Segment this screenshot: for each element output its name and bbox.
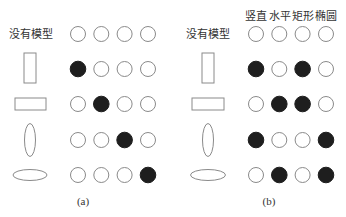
neuron-inactive: [249, 97, 264, 112]
no-model-label: 没有模型: [9, 27, 53, 41]
neuron-encoding-diagram: 没有模型 (a) 竖直 水平 矩形 椭圆 没有模型 (b): [0, 0, 346, 217]
neuron-inactive: [117, 27, 132, 42]
neuron-active: [70, 61, 86, 77]
neuron-inactive: [249, 27, 264, 42]
neuron-inactive: [117, 97, 132, 112]
neuron-active: [318, 132, 334, 148]
neuron-inactive: [319, 62, 334, 77]
neuron-inactive: [94, 168, 109, 183]
column-header-vertical: 竖直: [245, 9, 267, 23]
vertical-rectangle-icon: [202, 53, 214, 83]
neuron-inactive: [94, 133, 109, 148]
neuron-active: [94, 96, 110, 112]
neuron-inactive: [295, 27, 310, 42]
vertical-ellipse-icon: [25, 124, 36, 157]
panel-b: 竖直 水平 矩形 椭圆 没有模型 (b): [186, 9, 337, 208]
horizontal-ellipse-icon: [191, 170, 226, 181]
neuron-inactive: [94, 27, 109, 42]
neuron-active: [248, 61, 264, 77]
neuron-inactive: [141, 133, 156, 148]
neuron-inactive: [319, 27, 334, 42]
horizontal-ellipse-icon: [13, 170, 47, 181]
panel-caption-b: (b): [263, 195, 276, 208]
neuron-inactive: [272, 62, 287, 77]
horizontal-rectangle-icon: [15, 98, 46, 110]
no-model-label: 没有模型: [186, 27, 230, 41]
neuron-inactive: [141, 97, 156, 112]
neuron-inactive: [71, 27, 86, 42]
neuron-inactive: [295, 168, 310, 183]
neuron-inactive: [319, 97, 334, 112]
neuron-inactive: [272, 27, 287, 42]
panel-caption-a: (a): [77, 195, 90, 208]
neuron-inactive: [141, 27, 156, 42]
neuron-grid-a: [70, 27, 156, 183]
neuron-inactive: [272, 133, 287, 148]
neuron-inactive: [295, 133, 310, 148]
neuron-active: [140, 167, 156, 183]
neuron-active: [295, 61, 311, 77]
column-header-horizontal: 水平: [269, 10, 291, 23]
neuron-active: [272, 96, 288, 112]
neuron-inactive: [141, 62, 156, 77]
neuron-active: [295, 96, 311, 112]
neuron-active: [117, 132, 133, 148]
neuron-inactive: [71, 97, 86, 112]
neuron-active: [272, 167, 288, 183]
neuron-inactive: [117, 168, 132, 183]
neuron-inactive: [117, 62, 132, 77]
column-header-rectangle: 矩形: [292, 10, 314, 23]
horizontal-rectangle-icon: [192, 98, 224, 110]
neuron-active: [248, 132, 264, 148]
neuron-inactive: [71, 133, 86, 148]
column-headers: 竖直 水平 矩形 椭圆: [245, 9, 337, 23]
neuron-inactive: [249, 168, 264, 183]
neuron-inactive: [94, 62, 109, 77]
neuron-grid-b: [248, 27, 334, 183]
column-header-ellipse: 椭圆: [315, 9, 337, 23]
vertical-ellipse-icon: [203, 124, 214, 157]
neuron-inactive: [71, 168, 86, 183]
vertical-rectangle-icon: [24, 53, 36, 83]
panel-a: 没有模型 (a): [9, 27, 156, 209]
neuron-active: [318, 167, 334, 183]
